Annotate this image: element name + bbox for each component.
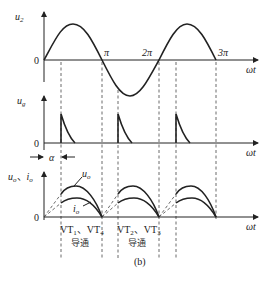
gate-pulse-1 [61,114,75,143]
tick-3pi: 3π [217,47,229,58]
io-curve-1 [61,198,102,217]
conduction-1-devices: VT1、VT4 [60,224,104,237]
tick-pi: π [104,47,110,58]
alpha-marker: α [30,152,75,163]
gate-pulse-2 [118,114,132,143]
io-curve-2 [118,198,159,217]
uo-origin-label: 0 [34,212,39,223]
conduction-2-devices: VT2、VT3 [117,224,161,237]
x-axis-label: ωt [246,64,256,75]
io-curve-3 [176,198,216,217]
uo-io-axis-label: uo、io [8,171,33,184]
u2-axis-label: u2 [15,11,24,24]
ug-origin-label: 0 [34,138,39,149]
u2-panel: u2 0 π 2π 3π ωt [15,11,258,96]
io-curve-label: io [73,203,80,216]
uo-io-panel: uo、io 0 ωt uo io [8,168,258,232]
conduction-1-state: 导通 [71,238,89,248]
ug-panel: ug 0 ωt [17,95,258,158]
gate-pulse-3 [176,114,190,143]
x-axis-label-2: ωt [246,147,256,158]
ug-axis-label: ug [17,95,26,108]
uo-curve-label: uo [82,168,91,181]
uo-curve-2 [118,186,159,217]
origin-label: 0 [34,55,39,66]
uo-curve-3 [176,186,216,217]
rectifier-waveform-diagram: u2 0 π 2π 3π ωt ug 0 ωt α uo、io 0 ωt [0,0,272,281]
tick-2pi: 2π [142,47,153,58]
uo-curve-1 [61,186,102,217]
conduction-labels: VT1、VT4 导通 VT2、VT3 导通 [60,224,161,248]
conduction-2-state: 导通 [128,238,146,248]
x-axis-label-3: ωt [246,221,256,232]
alpha-label: α [49,152,55,163]
figure-caption: (b) [134,256,146,268]
